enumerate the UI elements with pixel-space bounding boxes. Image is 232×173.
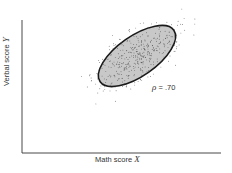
y-axis-label: Verbal score Y	[1, 37, 11, 86]
scatter-plot	[0, 0, 232, 173]
correlation-annotation: ρ = .70	[152, 82, 175, 92]
x-axis-label: Math score X	[95, 154, 140, 164]
